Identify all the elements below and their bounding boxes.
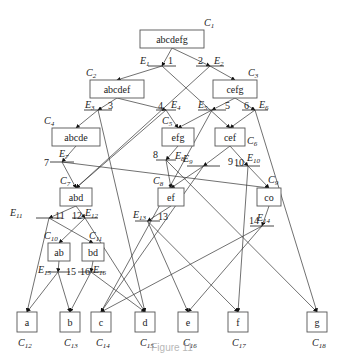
node-label-c9: C9 bbox=[268, 174, 279, 187]
edge-number: 1 bbox=[168, 55, 173, 66]
connection-arrow bbox=[238, 166, 248, 312]
connection-arrow bbox=[59, 218, 85, 243]
connection-arrow bbox=[148, 221, 239, 312]
connection-arrow bbox=[76, 110, 98, 128]
node-c2: abcdef bbox=[90, 80, 144, 98]
connection-arrow bbox=[171, 166, 204, 188]
connection-arrow bbox=[248, 166, 269, 188]
node-label-c1: C1 bbox=[204, 17, 214, 30]
node-c4: abcde bbox=[52, 128, 100, 146]
node-label-c6: C6 bbox=[247, 135, 258, 148]
node-text: ab bbox=[54, 247, 63, 258]
node-text: abcdefg bbox=[156, 34, 188, 45]
edge-label-e9: E9 bbox=[182, 153, 193, 166]
connection-arrow bbox=[172, 48, 210, 66]
edge-label-e10: E10 bbox=[246, 152, 261, 165]
connection-arrow bbox=[212, 98, 235, 110]
node-c18: g bbox=[307, 312, 327, 332]
node-c12: a bbox=[17, 312, 37, 332]
node-text: ef bbox=[167, 192, 175, 203]
node-label-c4: C4 bbox=[44, 115, 55, 128]
node-c11: bd bbox=[82, 243, 104, 261]
node-text: e bbox=[186, 317, 191, 328]
edge-label-e16: E16 bbox=[92, 264, 107, 277]
node-label-c3: C3 bbox=[248, 67, 259, 80]
node-c8: ef bbox=[158, 188, 184, 206]
edge-number: 12 bbox=[72, 210, 82, 221]
node-text: d bbox=[143, 317, 148, 328]
node-label-c8: C8 bbox=[153, 175, 164, 188]
node-label-c2: C2 bbox=[86, 67, 97, 80]
edge-number: 9 bbox=[228, 156, 233, 167]
edge-number: 11 bbox=[55, 210, 65, 221]
edge-label-e1: E1 bbox=[139, 55, 150, 68]
node-label-c7: C7 bbox=[60, 175, 71, 188]
node-c5: efg bbox=[162, 128, 194, 146]
connection-arrow bbox=[101, 226, 262, 312]
node-c15: d bbox=[135, 312, 155, 332]
node-text: c bbox=[99, 317, 104, 328]
connection-arrow bbox=[58, 272, 70, 312]
edge-number: 5 bbox=[225, 100, 230, 111]
node-text: a bbox=[25, 317, 30, 328]
node-text: abcdef bbox=[104, 84, 131, 95]
connection-arrow bbox=[166, 160, 317, 312]
connection-arrow bbox=[204, 146, 231, 166]
node-text: b bbox=[68, 317, 73, 328]
connection-arrow bbox=[70, 272, 91, 312]
node-c6: cef bbox=[215, 128, 245, 146]
node-c16: e bbox=[178, 312, 198, 332]
edge-label-e7: E7 bbox=[58, 148, 69, 161]
connection-arrow bbox=[230, 110, 255, 128]
edge-number: 16 bbox=[80, 266, 90, 277]
edge-number: 6 bbox=[244, 100, 249, 111]
node-text: cef bbox=[224, 132, 237, 143]
edge-number: 3 bbox=[108, 100, 113, 111]
node-label-c11: C11 bbox=[89, 230, 102, 243]
labels: E11E22E33E44E55E66E77E88E99E1010E1111E12… bbox=[9, 17, 326, 350]
node-text: abcde bbox=[64, 132, 88, 143]
node-c3: cefg bbox=[213, 80, 257, 98]
node-c17: f bbox=[228, 312, 248, 332]
node-c13: b bbox=[60, 312, 80, 332]
reduction-diagram: abcdefgabcdefcefgabcdeefgcefabdefcoabbda… bbox=[0, 0, 344, 354]
connection-arrow bbox=[101, 110, 212, 312]
edge-number: 13 bbox=[158, 211, 168, 222]
connection-arrow bbox=[148, 221, 189, 312]
edge-number: 15 bbox=[66, 266, 76, 277]
edge-number: 2 bbox=[198, 55, 203, 66]
edge-number: 14 bbox=[249, 215, 259, 226]
node-c14: c bbox=[91, 312, 111, 332]
edge-number: 10 bbox=[234, 157, 244, 168]
edge-number: 4 bbox=[158, 100, 163, 111]
node-text: cefg bbox=[226, 84, 243, 95]
node-text: abd bbox=[69, 192, 83, 203]
edge-label-e13: E13 bbox=[132, 209, 147, 222]
node-label-c10: C10 bbox=[44, 230, 58, 243]
node-c9: co bbox=[257, 188, 281, 206]
edge-number: 7 bbox=[44, 157, 49, 168]
connection-arrow bbox=[255, 110, 317, 312]
connection-arrow bbox=[210, 66, 235, 80]
node-text: g bbox=[315, 317, 320, 328]
node-c7: abd bbox=[60, 188, 92, 206]
figure-caption: Figure 11 bbox=[0, 342, 344, 353]
edge-label-e11: E11 bbox=[9, 207, 23, 220]
node-text: bd bbox=[88, 247, 98, 258]
connection-arrow bbox=[117, 66, 162, 80]
connection-arrow bbox=[58, 261, 59, 272]
node-c1: abcdefg bbox=[140, 30, 204, 48]
node-text: efg bbox=[172, 132, 185, 143]
node-c10: ab bbox=[48, 243, 70, 261]
edge-number: 8 bbox=[153, 149, 158, 160]
node-label-c5: C5 bbox=[162, 115, 173, 128]
edge-label-e15: E15 bbox=[37, 264, 52, 277]
node-text: co bbox=[264, 192, 273, 203]
